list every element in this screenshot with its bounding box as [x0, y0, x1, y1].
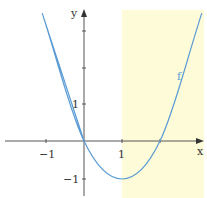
y-axis-arrow-icon	[81, 9, 87, 17]
function-plot: x y f −1 1 1 −1	[0, 0, 207, 198]
shaded-region	[122, 10, 204, 198]
ytick-label-neg1: −1	[63, 173, 79, 186]
xtick-label-1: 1	[118, 148, 125, 161]
y-axis-label: y	[70, 7, 78, 20]
ytick-label-1: 1	[72, 98, 79, 111]
xtick-label-neg1: −1	[39, 148, 55, 161]
x-axis-label: x	[197, 145, 204, 158]
